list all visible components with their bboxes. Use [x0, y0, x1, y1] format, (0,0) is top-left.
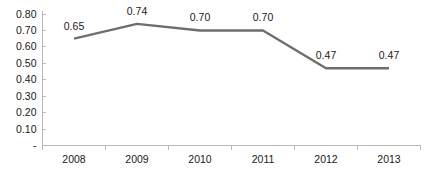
- y-axis-tick-label: 0.30: [16, 90, 37, 102]
- x-axis-tick-label: 2011: [252, 153, 275, 165]
- chart-canvas: 0.800.700.600.500.400.300.200.10- 200820…: [0, 0, 429, 176]
- y-axis-tick-label: 0.70: [16, 24, 37, 36]
- x-axis-tick-label: 2010: [188, 153, 212, 165]
- y-axis-tick-label: -: [33, 139, 37, 151]
- x-axis-tick-label: 2012: [314, 153, 338, 165]
- data-point-label: 0.70: [190, 11, 211, 23]
- y-axis-tick-label: 0.50: [16, 57, 37, 69]
- data-point-label: 0.47: [379, 49, 400, 61]
- y-axis-tick-label: 0.20: [16, 106, 37, 118]
- line-chart: 0.800.700.600.500.400.300.200.10- 200820…: [0, 0, 429, 176]
- x-axis-tick-label: 2008: [62, 153, 86, 165]
- y-axis-tick-label: 0.10: [16, 123, 37, 135]
- data-point-label: 0.74: [127, 5, 148, 17]
- y-axis-tick-label: 0.80: [16, 8, 37, 20]
- x-axis-tick-label: 2009: [125, 153, 149, 165]
- data-point-label: 0.65: [64, 20, 85, 32]
- y-axis-tick-label: 0.60: [16, 40, 37, 52]
- x-axis-tick-label: 2013: [377, 153, 401, 165]
- data-point-label: 0.70: [253, 11, 274, 23]
- data-point-label: 0.47: [316, 49, 337, 61]
- y-axis-tick-label: 0.40: [16, 73, 37, 85]
